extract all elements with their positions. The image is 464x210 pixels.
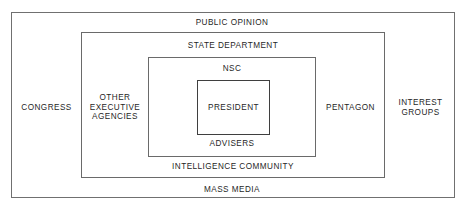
ring-president <box>197 80 270 135</box>
nested-boxes-diagram: PUBLIC OPINION STATE DEPARTMENT NSC PRES… <box>0 0 464 210</box>
